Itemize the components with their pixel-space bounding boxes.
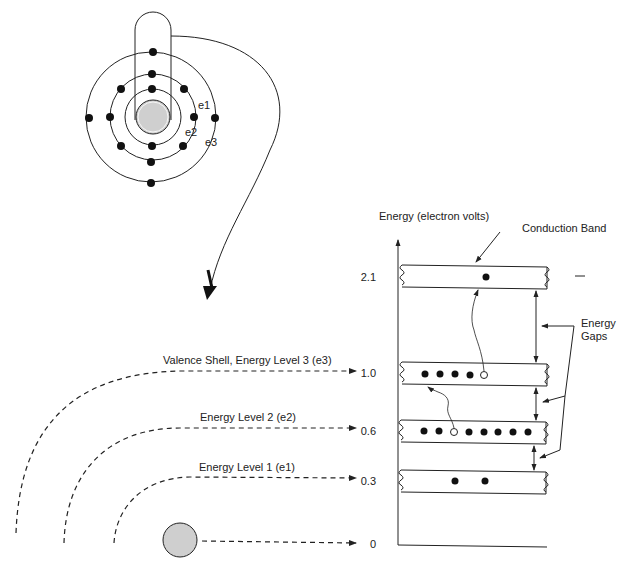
level-2-label: Energy Level 2 (e2) xyxy=(200,412,296,423)
tick-0: 0 xyxy=(352,539,376,550)
arc-level-1 xyxy=(114,477,356,543)
axis-title: Energy (electron volts) xyxy=(379,211,489,222)
level-1-label: Energy Level 1 (e1) xyxy=(199,462,295,473)
conduction-pointer xyxy=(476,232,500,262)
atom-model xyxy=(86,12,280,290)
shell-label-e1: e1 xyxy=(198,100,210,111)
tick-0-3: 0.3 xyxy=(352,476,376,487)
shell-label-e3: e3 xyxy=(205,137,217,148)
arc-level-2 xyxy=(64,428,356,543)
shell-label-e2: e2 xyxy=(185,127,197,138)
transition-paths xyxy=(428,290,484,428)
energy-band-diagram xyxy=(0,0,630,569)
energy-gaps-label-1: Energy xyxy=(581,318,616,329)
nucleus xyxy=(136,100,170,134)
tick-0-6: 0.6 xyxy=(352,426,376,437)
tick-1-0: 1.0 xyxy=(352,368,376,379)
energy-gaps-label-2: Gaps xyxy=(581,331,607,342)
level-arcs xyxy=(16,371,356,543)
arc-level-3 xyxy=(16,371,356,533)
conduction-band-label: Conduction Band xyxy=(522,223,606,234)
level-3-label: Valence Shell, Energy Level 3 (e3) xyxy=(163,355,332,366)
nucleus-small xyxy=(163,523,197,557)
transition-curve xyxy=(171,36,280,290)
tick-2-1: 2.1 xyxy=(352,272,376,283)
band-0-3 xyxy=(401,470,546,494)
bands xyxy=(399,265,549,494)
arc-nucleus xyxy=(202,541,356,543)
down-arrow-icon xyxy=(203,286,217,300)
band-conduction xyxy=(402,265,547,289)
